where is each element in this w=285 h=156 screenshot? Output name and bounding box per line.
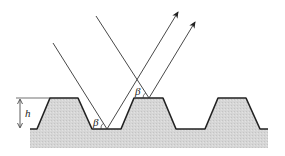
- angle-label-left: β: [92, 116, 99, 128]
- height-label: h: [25, 107, 31, 119]
- incident-ray-2: [96, 16, 149, 98]
- angle-arc-left: [101, 124, 103, 130]
- angle-label-right: β: [134, 85, 141, 97]
- grating-diagram: β β h: [0, 0, 285, 156]
- reflected-ray-2: [149, 22, 195, 98]
- substrate: [30, 98, 268, 148]
